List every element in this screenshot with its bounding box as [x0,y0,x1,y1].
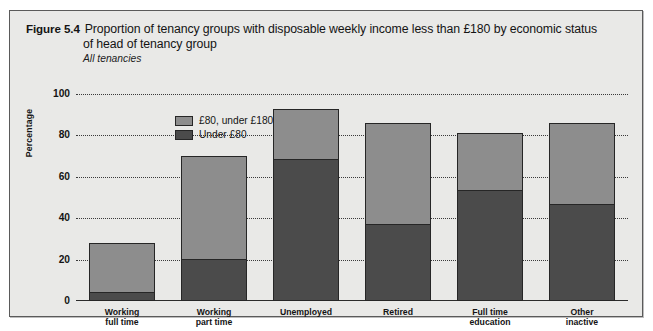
x-axis-label-line1: Retired [352,307,444,317]
bar-column [549,94,615,301]
y-axis-label: Percentage [24,73,34,193]
y-tick-60: 60 [36,171,70,182]
x-axis-labels: Workingfull timeWorkingpart timeUnemploy… [76,307,628,328]
y-tick-20: 20 [36,254,70,265]
stacked-bar [181,156,247,301]
x-axis-label-line1: Other [536,307,628,317]
figure-number: Figure 5.4 [26,22,80,35]
legend-item-1: Under £80 [175,129,273,140]
bar-segment-80-under-180 [274,110,338,159]
stacked-bar [273,109,339,302]
y-tick-80: 80 [36,129,70,140]
x-axis-label-line1: Full time [444,307,536,317]
legend-swatch-dark [175,130,193,140]
bar-segment-under-80 [550,204,614,300]
screenshot-page: Figure 5.4Proportion of tenancy groups w… [0,0,653,331]
legend-swatch-light [175,116,193,126]
x-axis-label: Retired [352,307,444,328]
bar-group [76,94,628,301]
bar-segment-under-80 [274,159,338,300]
bar-column [457,94,523,301]
figure-title-line2: of head of tenancy group [26,37,626,52]
x-axis-label: Otherinactive [536,307,628,328]
legend-label-1: Under £80 [199,129,247,140]
chart-legend: £80, under £180 Under £80 [175,115,273,143]
chart-area: Percentage 100 80 60 40 20 0 £80, unde [26,81,630,305]
stacked-bar [89,243,155,301]
x-axis-label-line2: part time [168,317,260,327]
stacked-bar [549,123,615,301]
bar-segment-80-under-180 [550,124,614,204]
x-axis-label-line2: full time [76,317,168,327]
x-axis-label: Workingpart time [168,307,260,328]
legend-label-0: £80, under £180 [199,115,273,126]
bar-segment-80-under-180 [90,244,154,292]
y-tick-100: 100 [36,88,70,99]
bar-segment-under-80 [90,292,154,300]
bar-segment-under-80 [366,224,430,300]
x-axis-label-line2: education [444,317,536,327]
x-axis-label-line2: inactive [536,317,628,327]
bar-segment-80-under-180 [182,157,246,259]
x-axis-label-line1: Unemployed [260,307,352,317]
y-tick-40: 40 [36,212,70,223]
stacked-bar [457,133,523,301]
bar-segment-80-under-180 [458,134,522,189]
figure-subtitle: All tenancies [26,53,626,64]
stacked-bar [365,123,431,301]
bar-column [365,94,431,301]
bar-segment-under-80 [458,190,522,300]
x-axis-label: Workingfull time [76,307,168,328]
x-axis-label: Unemployed [260,307,352,328]
legend-item-0: £80, under £180 [175,115,273,126]
bar-column [89,94,155,301]
x-axis-label: Full timeeducation [444,307,536,328]
bar-segment-80-under-180 [366,124,430,224]
figure-title-line1: Figure 5.4Proportion of tenancy groups w… [26,22,626,37]
bar-segment-under-80 [182,259,246,300]
plot-canvas: £80, under £180 Under £80 [76,94,628,301]
figure-panel: Figure 5.4Proportion of tenancy groups w… [9,10,643,317]
figure-title-text1: Proportion of tenancy groups with dispos… [85,22,597,36]
y-tick-0: 0 [36,295,70,306]
x-axis-label-line1: Working [168,307,260,317]
bar-column [273,94,339,301]
x-axis-label-line1: Working [76,307,168,317]
figure-heading: Figure 5.4Proportion of tenancy groups w… [26,22,626,64]
